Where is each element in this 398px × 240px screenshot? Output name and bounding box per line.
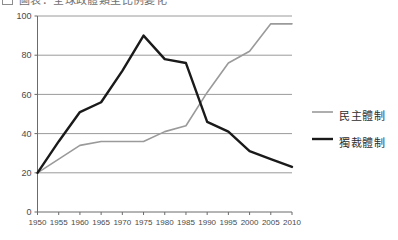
- x-tick-label-1985: 1985: [177, 218, 195, 227]
- x-tick-label-1970: 1970: [113, 218, 131, 227]
- y-tick-label-0: 0: [26, 207, 31, 217]
- x-tick-label-1965: 1965: [92, 218, 110, 227]
- x-tick-label-1975: 1975: [135, 218, 153, 227]
- y-tick-label-80: 80: [21, 50, 31, 60]
- x-tick-label-2010: 2010: [283, 218, 301, 227]
- gridlines: [38, 16, 293, 173]
- series-line-1: [38, 36, 293, 173]
- y-tick-label-20: 20: [21, 168, 31, 178]
- legend-item-autocracy: 獨裁體制: [339, 134, 385, 150]
- y-tick-label-100: 100: [16, 11, 31, 21]
- x-tick-label-2000: 2000: [241, 218, 259, 227]
- line-chart: 020406080100 195019551960196519701975198…: [0, 0, 398, 240]
- legend-swatches: [312, 112, 333, 139]
- data-series: [38, 24, 293, 173]
- x-tick-label-1990: 1990: [198, 218, 216, 227]
- x-tick-label-1960: 1960: [71, 218, 89, 227]
- legend-item-democracy: 民主體制: [339, 107, 385, 123]
- x-tick-label-1995: 1995: [219, 218, 237, 227]
- x-tick-label-2005: 2005: [262, 218, 280, 227]
- y-axis-ticks: 020406080100: [16, 11, 37, 217]
- x-tick-label-1955: 1955: [50, 218, 68, 227]
- series-line-0: [38, 24, 293, 173]
- x-tick-label-1950: 1950: [29, 218, 47, 227]
- y-tick-label-40: 40: [21, 129, 31, 139]
- y-tick-label-60: 60: [21, 90, 31, 100]
- x-tick-label-1980: 1980: [156, 218, 174, 227]
- x-axis-ticks: 1950195519601965197019751980198519901995…: [29, 212, 302, 227]
